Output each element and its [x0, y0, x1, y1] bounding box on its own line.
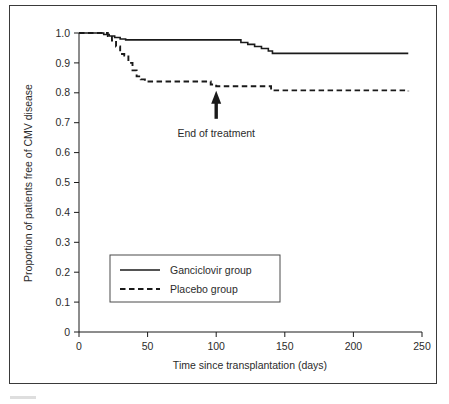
survival-curve-chart: 00.10.20.30.40.50.60.70.80.91.0 05010015…: [0, 0, 449, 404]
legend-label-ganciclovir: Ganciclovir group: [170, 264, 252, 276]
y-tick-label: 0.9: [55, 57, 70, 69]
end-of-treatment-label: End of treatment: [177, 127, 255, 139]
y-axis-ticks: 00.10.20.30.40.50.60.70.80.91.0: [55, 27, 79, 338]
x-axis-ticks: 050100150200250: [76, 332, 431, 352]
y-tick-label: 0: [64, 326, 70, 338]
legend-label-placebo: Placebo group: [170, 283, 238, 295]
y-tick-label: 0.3: [55, 236, 70, 248]
series-line-ganciclovir: [79, 33, 408, 53]
y-tick-label: 0.8: [55, 86, 70, 98]
y-tick-label: 0.4: [55, 206, 70, 218]
x-tick-label: 150: [276, 340, 294, 352]
y-axis-title: Proportion of patients free of CMV disea…: [22, 84, 34, 282]
y-tick-label: 0.5: [55, 176, 70, 188]
x-tick-label: 250: [413, 340, 431, 352]
x-tick-label: 50: [142, 340, 154, 352]
chart-legend: Ganciclovir group Placebo group: [110, 255, 280, 302]
y-tick-label: 0.2: [55, 266, 70, 278]
x-axis-title: Time since transplantation (days): [173, 359, 327, 371]
x-tick-label: 0: [76, 340, 82, 352]
y-tick-label: 0.6: [55, 146, 70, 158]
figure-root: 00.10.20.30.40.50.60.70.80.91.0 05010015…: [0, 0, 449, 404]
y-tick-label: 1.0: [55, 27, 70, 39]
series-line-placebo: [79, 33, 408, 91]
y-tick-label: 0.7: [55, 116, 70, 128]
end-of-treatment-arrow-icon: [211, 91, 221, 119]
y-tick-label: 0.1: [55, 296, 70, 308]
x-tick-label: 100: [207, 340, 225, 352]
x-tick-label: 200: [345, 340, 363, 352]
